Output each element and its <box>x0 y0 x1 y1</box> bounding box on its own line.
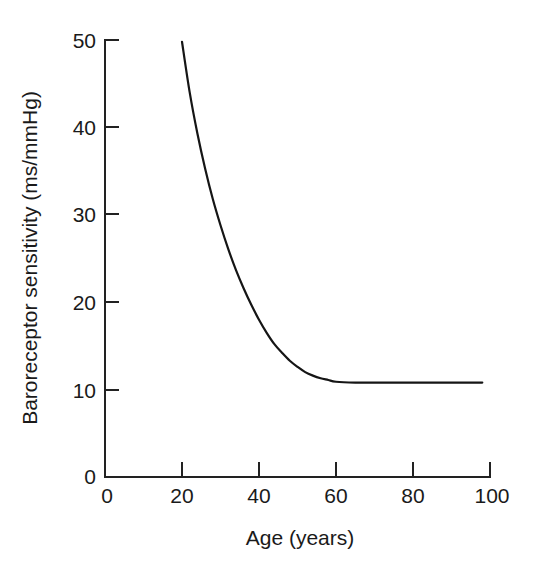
x-tick-label-40: 40 <box>247 484 270 507</box>
y-tick-label-50: 50 <box>73 29 96 52</box>
y-tick-label-0: 0 <box>84 465 96 488</box>
x-tick-label-100: 100 <box>474 484 509 507</box>
y-tick-label-30: 30 <box>73 203 96 226</box>
x-axis-ticks <box>182 462 490 477</box>
x-tick-label-80: 80 <box>401 484 424 507</box>
baroreceptor-sensitivity-line-chart: 50 40 30 20 10 0 0 20 40 60 80 100 Age (… <box>0 0 552 563</box>
y-tick-label-20: 20 <box>73 291 96 314</box>
y-axis-tick-labels: 50 40 30 20 10 0 <box>73 29 96 488</box>
x-axis-title: Age (years) <box>246 526 355 549</box>
y-tick-label-40: 40 <box>73 116 96 139</box>
y-axis-ticks <box>105 40 119 390</box>
chart-figure: 50 40 30 20 10 0 0 20 40 60 80 100 Age (… <box>0 0 552 563</box>
y-tick-label-10: 10 <box>73 379 96 402</box>
y-axis-title: Baroreceptor sensitivity (ms/mmHg) <box>18 91 41 425</box>
data-series-baroreceptor-sensitivity <box>182 42 482 383</box>
x-axis-tick-labels: 0 20 40 60 80 100 <box>101 484 509 507</box>
x-tick-label-0: 0 <box>101 484 113 507</box>
x-tick-label-60: 60 <box>324 484 347 507</box>
x-tick-label-20: 20 <box>170 484 193 507</box>
